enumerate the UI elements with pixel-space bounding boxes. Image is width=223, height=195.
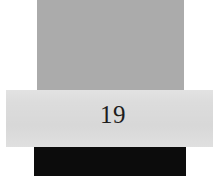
page-number: 19 [98,101,128,129]
scanned-page-fragment: 19 [0,0,223,195]
black-bar [34,147,186,176]
upper-gray-block [37,0,184,91]
